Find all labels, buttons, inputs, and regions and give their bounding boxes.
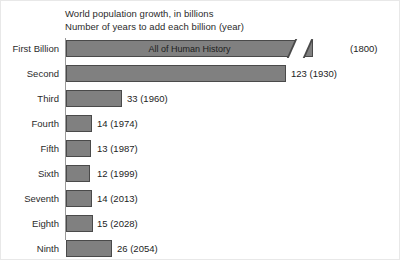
category-label-fourth: Fourth <box>1 118 59 129</box>
category-label-first-billion: First Billion <box>1 43 59 54</box>
bar-row: Ninth 26 (2054) <box>1 240 400 260</box>
bar-second <box>66 65 286 82</box>
bar-inner-label-ninth <box>67 241 111 258</box>
value-label-fourth: 14 (1974) <box>97 118 138 129</box>
bar-row: Eighth 15 (2028) <box>1 215 400 237</box>
bar-row: Sixth 12 (1999) <box>1 165 400 187</box>
category-label-fifth: Fifth <box>1 143 59 154</box>
bar-row: Fourth 14 (1974) <box>1 115 400 137</box>
bar-inner-label-second <box>67 66 285 83</box>
bar-sixth <box>66 165 90 182</box>
bar-eighth <box>66 215 93 232</box>
chart-title-block: World population growth, in billions Num… <box>65 7 244 33</box>
bar-inner-label-seventh <box>67 191 91 208</box>
category-label-ninth: Ninth <box>1 243 59 254</box>
value-label-first-billion: (1800) <box>350 43 377 54</box>
value-label-fifth: 13 (1987) <box>97 143 138 154</box>
value-label-sixth: 12 (1999) <box>97 168 138 179</box>
bar-inner-label-sixth <box>67 166 89 183</box>
value-label-ninth: 26 (2054) <box>117 243 158 254</box>
bar-row: First Billion All of Human History (1800… <box>1 40 400 62</box>
category-label-sixth: Sixth <box>1 168 59 179</box>
bar-third <box>66 90 122 107</box>
bar-inner-label-eighth <box>67 216 92 233</box>
value-label-eighth: 15 (2028) <box>97 218 138 229</box>
value-label-second: 123 (1930) <box>291 68 337 79</box>
bar-inner-label-third <box>67 91 121 108</box>
value-label-third: 33 (1960) <box>127 93 168 104</box>
bar-row: Fifth 13 (1987) <box>1 140 400 162</box>
bar-first-billion: All of Human History <box>66 40 313 57</box>
category-label-third: Third <box>1 93 59 104</box>
chart-subtitle: Number of years to add each billion (yea… <box>65 20 244 33</box>
value-label-seventh: 14 (2013) <box>97 193 138 204</box>
category-label-seventh: Seventh <box>1 193 59 204</box>
bar-inner-label-fifth <box>67 141 90 158</box>
category-label-second: Second <box>1 68 59 79</box>
bar-fourth <box>66 115 92 132</box>
category-label-eighth: Eighth <box>1 218 59 229</box>
bar-row: Seventh 14 (2013) <box>1 190 400 212</box>
chart-container: World population growth, in billions Num… <box>0 0 400 260</box>
bar-seventh <box>66 190 92 207</box>
bar-fifth <box>66 140 91 157</box>
bar-inner-label-fourth <box>67 116 91 133</box>
bar-row: Second 123 (1930) <box>1 65 400 87</box>
bar-ninth <box>66 240 112 257</box>
bar-row: Third 33 (1960) <box>1 90 400 112</box>
chart-title: World population growth, in billions <box>65 7 244 20</box>
bar-inner-label-first-billion: All of Human History <box>67 41 312 58</box>
